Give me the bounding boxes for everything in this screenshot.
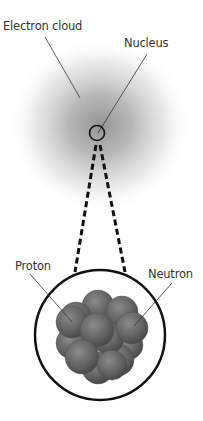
proton-label: Proton (15, 259, 51, 273)
electron-cloud (8, 37, 192, 213)
electron-cloud-label: Electron cloud (3, 19, 82, 33)
atom-diagram (0, 0, 203, 421)
nucleus-label: Nucleus (124, 36, 168, 50)
neutron-sphere (116, 312, 148, 344)
neutron-label: Neutron (148, 267, 193, 281)
